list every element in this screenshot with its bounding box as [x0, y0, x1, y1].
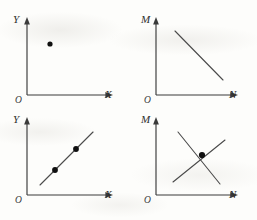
upward-sloping-line: [40, 132, 93, 185]
downward-sloping-line: [178, 132, 220, 184]
origin-label: O: [144, 96, 151, 106]
y-axis-label: Y: [13, 114, 19, 125]
y-axis-label: Y: [13, 14, 19, 25]
x-axis-label: N: [229, 89, 237, 100]
x-axis-label: X: [105, 89, 112, 100]
panel-top-right: M N O: [128, 0, 257, 110]
figure-root: Y X O M N O Y X O: [0, 0, 257, 220]
panel-top-left: Y X O: [0, 0, 128, 110]
origin-label: O: [144, 196, 151, 206]
origin-label: O: [15, 96, 22, 106]
x-axis-label: X: [105, 189, 112, 200]
origin-label: O: [15, 196, 22, 206]
intersection-point-dot: [199, 152, 205, 158]
y-axis-label: M: [141, 14, 150, 25]
data-point-dot: [52, 167, 58, 173]
y-axis-arrow-icon: [24, 117, 30, 125]
y-axis-label: M: [141, 114, 150, 125]
panel-bottom-left: Y X O: [0, 110, 128, 220]
upward-sloping-line: [173, 140, 225, 182]
panel-bottom-right: M N O: [128, 110, 257, 220]
x-axis-label: N: [229, 189, 237, 200]
y-axis-arrow-icon: [153, 17, 159, 25]
downward-sloping-line: [175, 31, 223, 80]
y-axis-arrow-icon: [24, 17, 30, 25]
data-point-dot: [73, 146, 79, 152]
y-axis-arrow-icon: [153, 117, 159, 125]
data-point-dot: [47, 41, 52, 46]
